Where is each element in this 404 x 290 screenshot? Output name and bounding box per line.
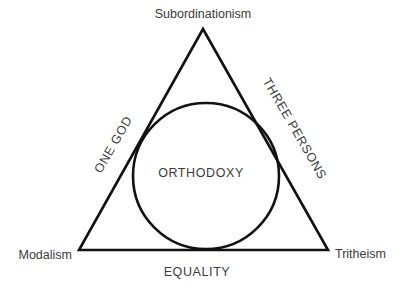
edge-label-bottom: EQUALITY	[164, 265, 231, 279]
vertex-label-top: Subordinationism	[155, 7, 252, 21]
trinity-diagram-svg: Subordinationism Modalism Tritheism ONE …	[0, 0, 404, 290]
edge-label-right: THREE PERSONS	[260, 75, 330, 181]
diagram-canvas: Subordinationism Modalism Tritheism ONE …	[0, 0, 404, 290]
vertex-label-bottom-left: Modalism	[19, 248, 73, 262]
center-label-orthodoxy: ORTHODOXY	[158, 166, 244, 180]
vertex-label-bottom-right: Tritheism	[335, 247, 386, 261]
edge-label-left: ONE GOD	[92, 114, 136, 176]
